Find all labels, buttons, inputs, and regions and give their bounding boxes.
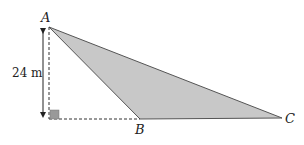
shaded-triangle-abc — [49, 27, 282, 119]
label-a: A — [40, 10, 50, 25]
label-c: C — [285, 111, 295, 126]
triangle-diagram: A B C 24 m — [0, 0, 304, 145]
height-label: 24 m — [12, 66, 43, 80]
right-angle-marker — [50, 110, 59, 119]
label-b: B — [134, 122, 145, 137]
